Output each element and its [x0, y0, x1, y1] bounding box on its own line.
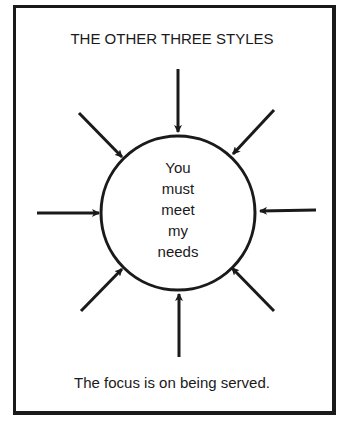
circle-label-line: needs: [128, 241, 228, 262]
circle-label-line: meet: [128, 199, 228, 220]
arrow-bottom-right-icon: [232, 268, 274, 311]
arrow-bottom-left-icon: [81, 269, 122, 311]
circle-label-line: You: [128, 157, 228, 178]
arrow-top-left-icon: [79, 113, 122, 157]
diagram-caption: The focus is on being served.: [0, 374, 344, 391]
circle-label: You must meet my needs: [128, 157, 228, 262]
arrow-right-icon: [260, 210, 316, 211]
circle-label-line: my: [128, 220, 228, 241]
arrow-top-right-icon: [233, 110, 274, 154]
circle-label-line: must: [128, 178, 228, 199]
